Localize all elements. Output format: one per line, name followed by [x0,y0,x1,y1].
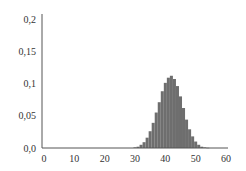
histogram-bar [191,136,194,148]
histogram-bar [182,108,185,148]
y-tick-label: 0,05 [19,110,37,121]
histogram-bar [152,123,155,148]
x-tick-label: 10 [69,153,79,164]
histogram-bar [179,96,182,148]
y-tick-label: 0,15 [19,46,37,57]
histogram-chart: 0,00,050,10,150,2 0102030405060 [0,0,246,171]
x-tick-label: 30 [130,153,140,164]
histogram-bar [146,138,149,148]
histogram-bar [167,78,170,148]
x-tick-label: 0 [42,153,47,164]
x-tick-label: 20 [100,153,110,164]
histogram-bar [170,76,173,148]
histogram-bar [185,120,188,148]
y-tick-label: 0,1 [24,78,37,89]
y-tick-label: 0,0 [24,143,37,154]
x-tick-label: 60 [221,153,231,164]
histogram-bar [173,79,176,148]
x-tick-labels: 0102030405060 [42,153,232,164]
y-tick-labels: 0,00,050,10,150,2 [19,14,37,154]
bars [133,76,209,148]
histogram-bar [176,86,179,148]
histogram-bar [164,83,167,148]
histogram-bar [158,102,161,148]
histogram-bar [155,113,158,148]
histogram-bar [143,142,146,148]
histogram-bar [188,129,191,148]
histogram-bar [194,142,197,148]
y-tick-label: 0,2 [24,14,37,25]
x-tick-label: 50 [191,153,201,164]
histogram-bar [161,91,164,148]
x-tick-label: 40 [160,153,170,164]
histogram-bar [149,131,152,148]
